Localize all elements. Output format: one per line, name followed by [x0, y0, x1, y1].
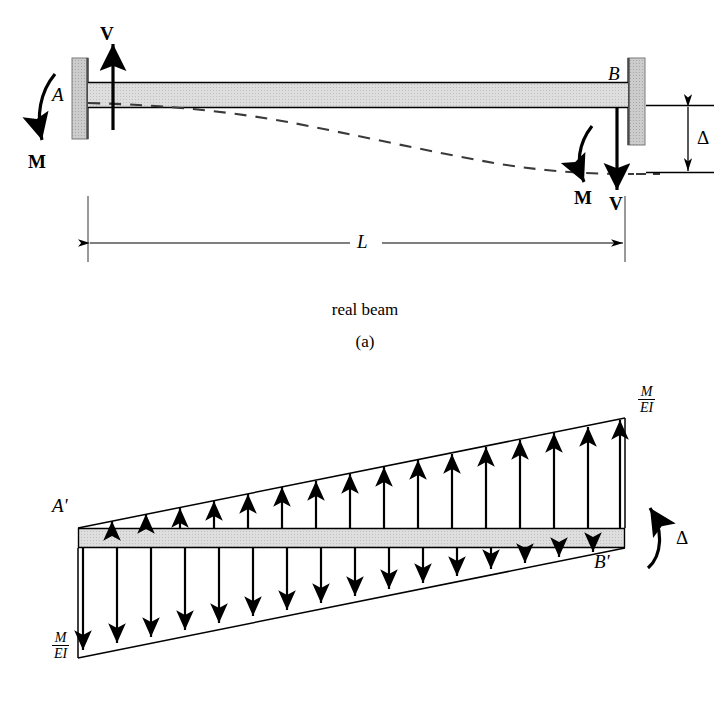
- engineering-figure: V A M B M V Δ L real beam (a) A' B' M EI…: [0, 0, 726, 721]
- load-label-top: M EI: [638, 384, 655, 415]
- real-beam-member: [88, 82, 628, 108]
- conjugate-load-arrows-top: [112, 420, 620, 528]
- shear-label-right: V: [609, 194, 623, 213]
- conjugate-beam-member: [78, 528, 625, 548]
- conjugate-load-arrows-bottom: [83, 548, 593, 650]
- rotation-arrow-conjugate: [648, 508, 660, 568]
- moment-label-right: M: [574, 188, 592, 207]
- load-label-bottom: M EI: [52, 630, 69, 661]
- moment-label-left: M: [28, 152, 46, 171]
- rotation-label-conjugate: Δ: [676, 528, 688, 547]
- load-label-top-numerator: M: [638, 384, 655, 399]
- span-dimension: [88, 196, 625, 262]
- part-label-a: (a): [265, 332, 465, 352]
- caption-real-beam: real beam: [265, 300, 465, 320]
- deflection-label-real: Δ: [697, 128, 709, 147]
- shear-label-left: V: [100, 24, 114, 43]
- span-label: L: [357, 232, 368, 251]
- point-label-b: B: [608, 64, 620, 83]
- load-label-bottom-denominator: EI: [52, 645, 69, 661]
- load-label-bottom-numerator: M: [52, 630, 69, 645]
- point-label-a: A: [52, 85, 64, 104]
- point-label-b-prime: B': [594, 552, 610, 571]
- left-fixed-support: [72, 58, 88, 139]
- right-fixed-support: [628, 58, 645, 145]
- load-label-top-denominator: EI: [638, 399, 655, 415]
- deflection-curve: [88, 103, 634, 174]
- figure-vector-canvas: [0, 0, 726, 721]
- point-label-a-prime: A': [52, 496, 68, 515]
